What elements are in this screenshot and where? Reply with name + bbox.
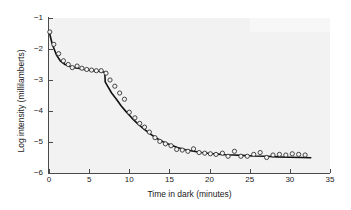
data-point-marker xyxy=(80,66,84,70)
data-point-marker xyxy=(89,68,93,72)
data-point-marker xyxy=(252,152,256,156)
data-layer xyxy=(0,0,351,210)
data-point-marker xyxy=(48,30,52,34)
data-point-marker xyxy=(186,149,190,153)
data-point-marker xyxy=(264,155,268,159)
data-point-marker xyxy=(163,142,167,146)
data-point-marker xyxy=(142,125,146,129)
data-point-marker xyxy=(57,52,61,56)
data-point-marker xyxy=(113,84,117,88)
data-point-marker xyxy=(52,42,56,46)
data-point-marker xyxy=(66,62,70,66)
data-point-marker xyxy=(122,97,126,101)
data-point-marker xyxy=(290,152,294,156)
data-point-marker xyxy=(104,71,108,75)
data-point-marker xyxy=(197,150,201,154)
fitted-curve xyxy=(49,31,311,158)
data-point-marker xyxy=(70,66,74,70)
data-point-marker xyxy=(108,78,112,82)
data-point-marker xyxy=(303,153,307,157)
data-point-marker xyxy=(239,154,243,158)
data-point-marker xyxy=(226,154,230,158)
data-point-marker xyxy=(61,59,65,63)
data-point-marker xyxy=(191,147,195,151)
data-point-marker xyxy=(203,151,207,155)
x-axis-label: Time in dark (minutes) xyxy=(49,189,330,199)
y-axis-label: Log intensity (millilamberts) xyxy=(16,26,26,176)
data-point-marker xyxy=(277,152,281,156)
data-point-marker xyxy=(169,144,173,148)
data-point-marker xyxy=(133,116,137,120)
data-point-marker xyxy=(85,67,89,71)
data-point-marker xyxy=(75,64,79,68)
data-point-marker xyxy=(180,148,184,152)
data-point-marker xyxy=(127,110,131,114)
data-point-marker xyxy=(158,139,162,143)
data-point-marker xyxy=(258,150,262,154)
data-point-marker xyxy=(153,136,157,140)
data-point-marker xyxy=(284,153,288,157)
data-point-marker xyxy=(214,152,218,156)
data-point-marker xyxy=(147,130,151,134)
data-point-marker xyxy=(245,154,249,158)
dark-adaptation-chart: −1−2−3−4−5−6 05101520253035 Log intensit… xyxy=(0,0,351,210)
data-point-marker xyxy=(208,152,212,156)
data-point-marker xyxy=(271,153,275,157)
data-point-marker xyxy=(175,147,179,151)
data-point-marker xyxy=(118,91,122,95)
data-point-marker xyxy=(94,69,98,73)
data-point-marker xyxy=(99,69,103,73)
data-point-marker xyxy=(138,121,142,125)
data-point-markers xyxy=(48,30,308,160)
data-point-marker xyxy=(220,151,224,155)
data-point-marker xyxy=(232,149,236,153)
data-point-marker xyxy=(297,152,301,156)
